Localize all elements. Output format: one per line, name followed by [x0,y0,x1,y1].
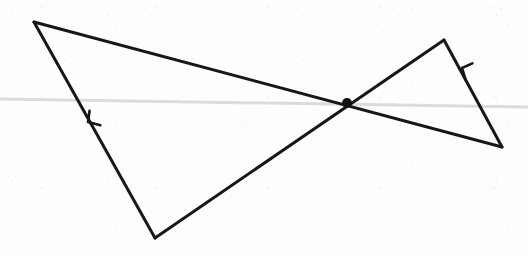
intersection-point-dot [342,98,352,108]
segment-left-descending-edge [34,22,155,238]
segment-rising-edge [155,40,444,238]
geometric-figure [0,0,528,256]
segment-long-diagonal [34,22,502,147]
figure-canvas [0,0,528,256]
segment-right-descending-edge [444,40,502,147]
